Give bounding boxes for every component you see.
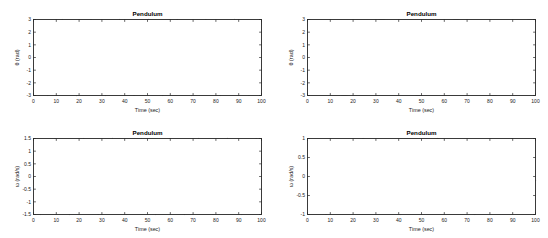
plot-content-0: 0102030405060708090100-3-2-10123Pendulum… (14, 10, 266, 113)
ytick-label: -1 (27, 67, 32, 73)
ytick-label: 1 (302, 135, 305, 141)
x-axis-label: Time (sec) (409, 226, 434, 232)
xtick-label: 0 (306, 217, 309, 223)
xtick-label: 60 (168, 98, 174, 104)
xtick-label: 10 (328, 98, 334, 104)
xtick-label: 90 (510, 217, 516, 223)
y-axis-label: ω (rad/s) (288, 166, 294, 187)
plot-panel-bottom-right: 0102030405060708090100-1-0.500.51Pendulu… (274, 119, 548, 238)
x-axis-label: Time (sec) (135, 107, 160, 113)
pendulum-figure-grid: 0102030405060708090100-3-2-10123Pendulum… (0, 0, 548, 238)
xtick-label: 20 (350, 98, 356, 104)
xtick-label: 90 (236, 98, 242, 104)
xtick-label: 30 (373, 217, 379, 223)
ytick-label: 1 (28, 148, 31, 154)
xtick-label: 100 (257, 217, 266, 223)
y-axis-label: θ (rad) (288, 49, 294, 65)
xtick-label: 50 (145, 98, 151, 104)
xtick-label: 80 (487, 98, 493, 104)
ytick-label: 0 (28, 54, 31, 60)
plot-frame (34, 139, 262, 215)
ytick-label: -3 (301, 92, 306, 98)
xtick-label: 70 (464, 217, 470, 223)
xtick-label: 60 (168, 217, 174, 223)
plot-title: Pendulum (407, 10, 437, 17)
ytick-label: 3 (302, 16, 305, 22)
ytick-label: 3 (28, 16, 31, 22)
xtick-label: 70 (190, 217, 196, 223)
plot-title: Pendulum (407, 129, 437, 136)
xtick-label: 40 (122, 217, 128, 223)
xtick-label: 40 (396, 98, 402, 104)
xtick-label: 50 (145, 217, 151, 223)
xtick-label: 70 (464, 98, 470, 104)
xtick-label: 80 (213, 98, 219, 104)
plot-content-1: 0102030405060708090100-3-2-10123Pendulum… (288, 10, 540, 113)
plot-panel-top-left: 0102030405060708090100-3-2-10123Pendulum… (0, 0, 274, 119)
xtick-label: 20 (76, 98, 82, 104)
ytick-label: 2 (28, 29, 31, 35)
ytick-label: -1.5 (22, 211, 31, 217)
xtick-label: 0 (32, 98, 35, 104)
xtick-label: 0 (32, 217, 35, 223)
y-axis-label: ω (rad/s) (14, 166, 20, 187)
ytick-label: -1 (301, 67, 306, 73)
xtick-label: 10 (54, 217, 60, 223)
plot-title: Pendulum (133, 129, 163, 136)
xtick-label: 40 (122, 98, 128, 104)
xtick-label: 50 (419, 217, 425, 223)
ytick-label: 0.5 (24, 161, 31, 167)
ytick-label: 2 (302, 29, 305, 35)
ytick-label: -2 (27, 80, 32, 86)
plot-svg-bottom-right: 0102030405060708090100-1-0.500.51Pendulu… (274, 119, 548, 238)
xtick-label: 30 (99, 98, 105, 104)
xtick-label: 80 (487, 217, 493, 223)
ytick-label: 0.5 (298, 154, 305, 160)
xtick-label: 10 (328, 217, 334, 223)
plot-frame (34, 20, 262, 96)
ytick-label: -2 (301, 80, 306, 86)
ytick-label: 0 (28, 173, 31, 179)
xtick-label: 20 (350, 217, 356, 223)
plot-panel-top-right: 0102030405060708090100-3-2-10123Pendulum… (274, 0, 548, 119)
plot-title: Pendulum (133, 10, 163, 17)
plot-content-3: 0102030405060708090100-1-0.500.51Pendulu… (288, 129, 540, 232)
xtick-label: 70 (190, 98, 196, 104)
xtick-label: 80 (213, 217, 219, 223)
xtick-label: 90 (510, 98, 516, 104)
xtick-label: 100 (531, 98, 540, 104)
xtick-label: 30 (373, 98, 379, 104)
ytick-label: -1 (301, 211, 306, 217)
xtick-label: 10 (54, 98, 60, 104)
y-axis-label: θ (rad) (14, 49, 20, 65)
ytick-label: -1 (27, 199, 32, 205)
ytick-label: 0 (302, 54, 305, 60)
ytick-label: 1.5 (24, 135, 31, 141)
plot-frame (308, 20, 536, 96)
plot-svg-top-left: 0102030405060708090100-3-2-10123Pendulum… (0, 0, 274, 119)
x-axis-label: Time (sec) (409, 107, 434, 113)
ytick-label: -0.5 (22, 186, 31, 192)
plot-svg-top-right: 0102030405060708090100-3-2-10123Pendulum… (274, 0, 548, 119)
xtick-label: 100 (257, 98, 266, 104)
xtick-label: 60 (442, 98, 448, 104)
xtick-label: 60 (442, 217, 448, 223)
xtick-label: 20 (76, 217, 82, 223)
xtick-label: 0 (306, 98, 309, 104)
plot-frame (308, 139, 536, 215)
x-axis-label: Time (sec) (135, 226, 160, 232)
xtick-label: 40 (396, 217, 402, 223)
xtick-label: 30 (99, 217, 105, 223)
xtick-label: 90 (236, 217, 242, 223)
ytick-label: 1 (302, 42, 305, 48)
ytick-label: -0.5 (296, 192, 305, 198)
plot-content-2: 0102030405060708090100-1.5-1-0.500.511.5… (14, 129, 266, 232)
plot-panel-bottom-left: 0102030405060708090100-1.5-1-0.500.511.5… (0, 119, 274, 238)
ytick-label: 1 (28, 42, 31, 48)
xtick-label: 100 (531, 217, 540, 223)
plot-svg-bottom-left: 0102030405060708090100-1.5-1-0.500.511.5… (0, 119, 274, 238)
xtick-label: 50 (419, 98, 425, 104)
ytick-label: -3 (27, 92, 32, 98)
ytick-label: 0 (302, 173, 305, 179)
